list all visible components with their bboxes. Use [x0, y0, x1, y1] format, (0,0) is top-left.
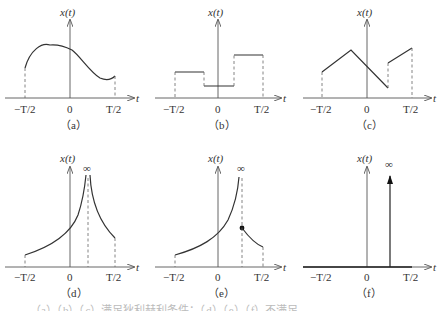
signal-curve-left [25, 175, 86, 255]
signal-figure: x(t) t −T/2 0 T/2 （a） x(t) t −T/2 0 T/2 … [0, 0, 440, 311]
tick-zero: 0 [215, 103, 221, 115]
panel-d: x(t) t ∞ −T/2 0 T/2 （d） [5, 152, 140, 299]
tick-pos: T/2 [106, 271, 121, 283]
x-axis-label: t [283, 92, 287, 104]
infinity-label: ∞ [83, 162, 91, 174]
signal-curve [175, 55, 263, 86]
y-axis-label: x(t) [207, 152, 224, 165]
signal-curve-left [175, 177, 239, 255]
tick-neg: −T/2 [163, 103, 184, 115]
tick-zero: 0 [67, 271, 73, 283]
caption: （b） [208, 119, 236, 131]
tick-zero: 0 [364, 103, 370, 115]
panel-b: x(t) t −T/2 0 T/2 （b） [155, 6, 287, 131]
panel-e: x(t) t ∞ −T/2 0 T/2 （e） [155, 152, 287, 299]
figure-footnote-cut: （a）（b）（c）满足狄利赫利条件；（d）（e）（f）不满足 [30, 303, 390, 311]
x-axis-label: t [283, 261, 287, 273]
caption: （e） [208, 287, 235, 299]
tick-pos: T/2 [403, 271, 418, 283]
caption: （a） [60, 119, 87, 131]
y-axis-label: x(t) [356, 152, 373, 165]
tick-pos: T/2 [403, 103, 418, 115]
tick-pos: T/2 [254, 271, 269, 283]
impulse-arrow-icon [387, 175, 393, 184]
y-axis-label: x(t) [356, 6, 373, 19]
panel-f: x(t) t ∞ −T/2 0 T/2 （f） [303, 152, 437, 299]
y-axis-label: x(t) [207, 6, 224, 19]
x-axis-label: t [136, 92, 140, 104]
signal-curve-right [90, 175, 115, 238]
tick-zero: 0 [215, 271, 221, 283]
infinity-label: ∞ [385, 158, 393, 170]
tick-zero: 0 [364, 271, 370, 283]
y-axis-label: x(t) [59, 152, 76, 165]
caption: （f） [356, 287, 382, 299]
x-axis-label: t [136, 261, 140, 273]
panel-c: x(t) t −T/2 0 T/2 （c） [303, 6, 437, 131]
x-axis-label: t [433, 261, 437, 273]
panel-a: x(t) t −T/2 0 T/2 （a） [5, 6, 140, 131]
tick-neg: −T/2 [14, 103, 35, 115]
tick-neg: −T/2 [163, 271, 184, 283]
tick-neg: −T/2 [14, 271, 35, 283]
signal-curve-right [242, 228, 263, 247]
tick-neg: −T/2 [310, 271, 331, 283]
caption: （c） [356, 119, 383, 131]
caption: （d） [60, 287, 88, 299]
tick-neg: −T/2 [310, 103, 331, 115]
y-axis-label: x(t) [59, 6, 76, 19]
tick-zero: 0 [67, 103, 73, 115]
tick-pos: T/2 [106, 103, 121, 115]
x-axis-label: t [433, 92, 437, 104]
tick-pos: T/2 [254, 103, 269, 115]
infinity-label: ∞ [237, 162, 245, 174]
